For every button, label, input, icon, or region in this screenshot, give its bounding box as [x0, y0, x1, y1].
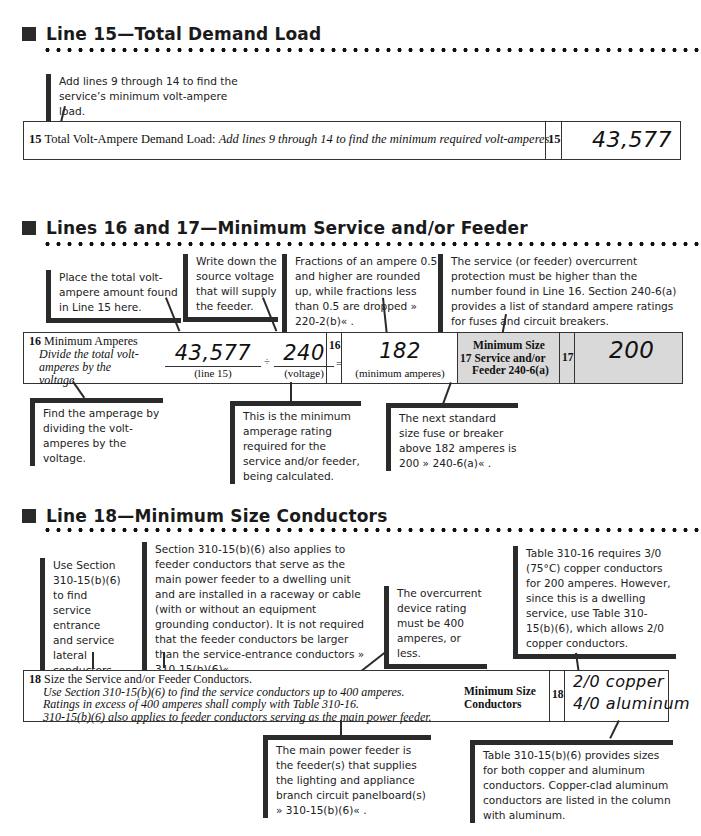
va-caption: (line 15): [165, 367, 261, 379]
voltage-value: 240: [283, 341, 325, 365]
heading-square-icon: [22, 221, 36, 235]
row-number: 15: [29, 132, 42, 146]
callout-copper-aluminum: Table 310-15(b)(6) provides sizes for bo…: [470, 740, 673, 823]
min-service-size-field[interactable]: 200: [574, 333, 682, 383]
section-title: Lines 16 and 17—Minimum Service and/or F…: [46, 218, 528, 238]
row-label: Minimum Amperes: [44, 334, 138, 348]
conductor-size-field[interactable]: 2/0 copper 4/0 aluminum: [564, 671, 668, 721]
min-amperes-caption: (minimum amperes): [342, 367, 458, 379]
row-label: Size the Service and/or Feeder Conductor…: [44, 672, 252, 686]
row-number: 18: [29, 672, 41, 686]
row-16-description: 16 Minimum Amperes Divide the total volt…: [29, 335, 149, 387]
section-title: Line 18—Minimum Size Conductors: [46, 506, 388, 526]
line-17-label: Minimum Size 17 Service and/or Feeder 24…: [457, 333, 560, 383]
box-number-cell-18: 18: [549, 671, 564, 721]
total-va-value: 43,577: [592, 127, 672, 152]
callout-table-310-16: Table 310-16 requires 3/0 (75°C) copper …: [513, 546, 676, 659]
callout-pointer: [163, 652, 165, 668]
callout-pointer: [442, 382, 452, 405]
callout-text: This is the minimum amperage rating requ…: [243, 410, 360, 482]
callout-overcurrent-400: The overcurrent device rating must be 40…: [384, 586, 487, 669]
callout-feeder-conductors: Section 310-15(b)(6) also applies to fee…: [142, 542, 370, 685]
callout-pointer: [340, 720, 342, 736]
callout-find-amperage: Find the amperage by dividing the volt-a…: [30, 398, 163, 466]
section-heading-lines-16-17: Lines 16 and 17—Minimum Service and/or F…: [22, 218, 528, 238]
box-number: 17: [562, 351, 574, 363]
callout-text: The overcurrent device rating must be 40…: [397, 587, 482, 659]
row-instruction: Ratings in excess of 400 amperes shall c…: [29, 698, 432, 711]
callout-text: Table 310-15(b)(6) provides sizes for bo…: [483, 749, 671, 821]
label-line: Minimum Size: [458, 339, 560, 352]
box-number: 16: [329, 339, 341, 351]
dotted-rule: [42, 527, 701, 533]
callout-pointer: [609, 720, 620, 739]
callout-text: Section 310-15(b)(6) also applies to fee…: [155, 543, 364, 675]
callout-use-section: Use Section 310-15(b)(6) to find service…: [40, 558, 121, 686]
callout-text: The next standard size fuse or breaker a…: [399, 412, 516, 469]
callout-pointer: [92, 652, 94, 668]
line-18-right-label: Minimum Size Conductors: [464, 685, 536, 711]
copper-size-value: 2/0 copper: [573, 672, 664, 691]
callout-text: Table 310-16 requires 3/0 (75°C) copper …: [526, 547, 671, 649]
divide-sign: ÷: [264, 355, 270, 367]
callout-rounding: Fractions of an ampere 0.5 and higher ar…: [282, 254, 440, 337]
callout-main-power-feeder: The main power feeder is the feeder(s) t…: [263, 735, 431, 818]
form-row-15: 15 Total Volt-Ampere Demand Load: Add li…: [23, 121, 681, 160]
row-18-description: 18 Size the Service and/or Feeder Conduc…: [29, 673, 432, 723]
box-number: 18: [552, 688, 564, 700]
row-instruction: 310-15(b)(6) also applies to feeder cond…: [29, 711, 432, 724]
callout-text: The main power feeder is the feeder(s) t…: [276, 744, 426, 816]
label-line: 17 Service and/or: [458, 352, 560, 365]
min-amperes-value: 182: [342, 339, 458, 363]
box-number: 15: [548, 132, 561, 147]
label-line: Conductors: [464, 698, 536, 711]
section-heading-line-18: Line 18—Minimum Size Conductors: [22, 506, 388, 526]
callout-voltage: Write down the source voltage that will …: [183, 254, 278, 322]
callout-text: Add lines 9 through 14 to find the servi…: [59, 75, 238, 117]
aluminum-size-value: 4/0 aluminum: [573, 694, 690, 713]
callout-pointer: [290, 382, 292, 402]
callout-overcurrent: The service (or feeder) overcurrent prot…: [438, 254, 678, 337]
min-amperes-field[interactable]: 182 (minimum amperes): [341, 333, 458, 383]
label-line: Feeder 240-6(a): [458, 364, 560, 377]
callout-text: Use Section 310-15(b)(6) to find service…: [53, 559, 121, 676]
total-va-field[interactable]: 43,577: [561, 122, 680, 159]
callout-minimum-rating: This is the minimum amperage rating requ…: [230, 401, 361, 484]
dotted-rule: [42, 47, 701, 53]
va-value: 43,577: [175, 341, 251, 365]
min-service-size-value: 200: [609, 337, 654, 363]
callout-text: Place the total volt-ampere amount found…: [59, 271, 178, 313]
label-line: Minimum Size: [464, 685, 536, 698]
callout-next-standard-size: The next standard size fuse or breaker a…: [386, 403, 518, 471]
voltage-caption: (voltage): [274, 367, 334, 379]
voltage-input-field[interactable]: 240: [274, 341, 334, 367]
callout-text: The service (or feeder) overcurrent prot…: [451, 255, 676, 327]
va-input-field[interactable]: 43,577: [165, 341, 261, 367]
row-number: 16: [29, 334, 41, 348]
form-row-16-17: 16 Minimum Amperes Divide the total volt…: [23, 332, 683, 384]
dotted-rule: [42, 241, 701, 247]
callout-line-15: Add lines 9 through 14 to find the servi…: [46, 74, 244, 127]
callout-text: Fractions of an ampere 0.5 and higher ar…: [295, 255, 437, 327]
callout-place-va: Place the total volt-ampere amount found…: [46, 270, 181, 323]
row-instruction: Add lines 9 through 14 to find the minim…: [219, 132, 553, 146]
callout-text: Find the amperage by dividing the volt-a…: [43, 407, 159, 464]
box-number-cell-16: 16: [326, 333, 341, 383]
section-heading-line-15: Line 15—Total Demand Load: [22, 24, 321, 44]
heading-square-icon: [22, 509, 36, 523]
box-number-cell: 15: [545, 122, 561, 159]
box-number-cell-17: 17: [559, 333, 574, 383]
heading-square-icon: [22, 27, 36, 41]
row-15-description: 15 Total Volt-Ampere Demand Load: Add li…: [29, 132, 553, 147]
row-instruction: Divide the total volt-amperes by the vol…: [29, 348, 149, 387]
section-title: Line 15—Total Demand Load: [46, 24, 321, 44]
form-row-18: 18 Size the Service and/or Feeder Conduc…: [23, 670, 669, 722]
row-label: Total Volt-Ampere Demand Load:: [44, 132, 215, 146]
